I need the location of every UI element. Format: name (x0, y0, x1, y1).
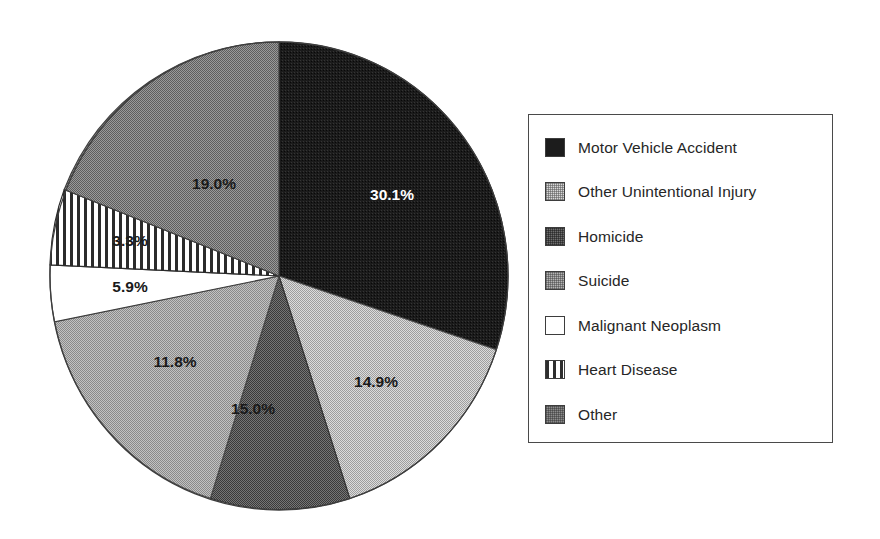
legend-swatch-other-unintentional-injury (545, 182, 565, 201)
legend-swatch-other (545, 405, 565, 424)
pie-label-motor-vehicle-accident: 30.1% (370, 186, 414, 203)
pie-label-heart-disease: 3.3% (112, 232, 148, 249)
legend-label-motor-vehicle-accident: Motor Vehicle Accident (578, 140, 737, 156)
legend-label-heart-disease: Heart Disease (578, 362, 678, 378)
legend-swatch-heart-disease (545, 360, 565, 379)
legend-item-motor-vehicle-accident[interactable]: Motor Vehicle Accident (545, 125, 825, 170)
legend-item-other[interactable]: Other (545, 392, 825, 437)
legend-label-other-unintentional-injury: Other Unintentional Injury (578, 184, 756, 200)
legend-label-homicide: Homicide (578, 229, 643, 245)
pie-slices (50, 42, 508, 510)
legend-label-other: Other (578, 407, 617, 423)
pie-label-other: 19.0% (192, 175, 236, 192)
legend-label-suicide: Suicide (578, 273, 630, 289)
pie-label-malignant-neoplasm: 5.9% (112, 278, 148, 295)
legend-swatch-malignant-neoplasm (545, 316, 565, 335)
legend-item-heart-disease[interactable]: Heart Disease (545, 348, 825, 393)
legend-swatch-homicide (545, 227, 565, 246)
legend-item-malignant-neoplasm[interactable]: Malignant Neoplasm (545, 303, 825, 348)
legend-label-malignant-neoplasm: Malignant Neoplasm (578, 318, 721, 334)
legend-list: Motor Vehicle Accident Other Unintention… (545, 125, 825, 437)
legend-item-other-unintentional-injury[interactable]: Other Unintentional Injury (545, 170, 825, 215)
legend-item-homicide[interactable]: Homicide (545, 214, 825, 259)
legend-box: Motor Vehicle Accident Other Unintention… (528, 114, 833, 443)
pie-chart-figure: 30.1% 14.9% 15.0% 11.8% 5.9% 3.3% 19.0% … (0, 0, 880, 539)
legend-swatch-motor-vehicle-accident (545, 138, 565, 157)
pie-label-other-unintentional-injury: 14.9% (354, 373, 398, 390)
legend-swatch-suicide (545, 271, 565, 290)
legend-item-suicide[interactable]: Suicide (545, 259, 825, 304)
pie-label-suicide: 11.8% (153, 353, 196, 370)
pie-label-homicide: 15.0% (231, 400, 275, 417)
